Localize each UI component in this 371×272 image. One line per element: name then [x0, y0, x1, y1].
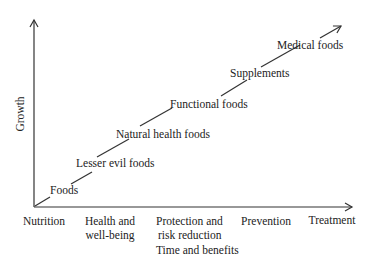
x-category-treatment: Treatment [309, 214, 357, 226]
growth-diagram: Growth Foods Lesser evil foods Natural h… [0, 0, 371, 272]
stage-functional-foods: Functional foods [170, 98, 248, 110]
x-category-nutrition: Nutrition [23, 215, 65, 227]
stage-supplements: Supplements [230, 67, 290, 80]
stage-foods: Foods [50, 184, 79, 196]
x-category-prevention: Prevention [241, 215, 291, 227]
x-category-protection-line1: Protection and [156, 215, 223, 227]
stage-lesser-evil-foods: Lesser evil foods [76, 157, 155, 169]
stage-medical-foods: Medical foods [277, 39, 344, 51]
stage-natural-health-foods: Natural health foods [116, 128, 210, 140]
y-axis-label: Growth [14, 96, 26, 131]
progression-arrow [35, 26, 341, 206]
x-category-protection-line2: risk reduction [158, 229, 222, 241]
x-category-health-line2: well-being [85, 229, 134, 242]
x-category-health-line1: Health and [85, 215, 135, 227]
x-axis-title: Time and benefits [156, 244, 239, 256]
